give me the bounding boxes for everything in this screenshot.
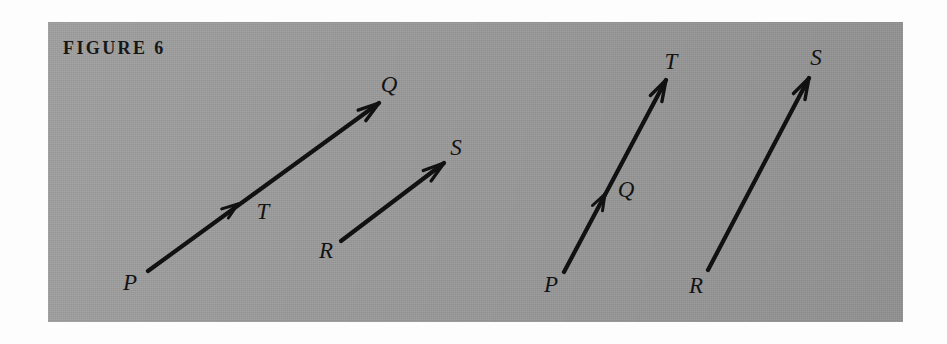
label-r-left: R xyxy=(319,239,333,262)
label-p-right: P xyxy=(544,273,558,296)
figure-panel xyxy=(48,22,903,322)
label-t-right: T xyxy=(665,50,678,73)
panel-shading-overlay xyxy=(48,22,903,322)
label-s-left: S xyxy=(450,136,462,159)
label-q-right: Q xyxy=(618,178,635,201)
label-q-left: Q xyxy=(381,73,398,96)
label-t-left: T xyxy=(257,200,270,223)
panel-grain-texture xyxy=(48,22,903,322)
label-p-left: P xyxy=(123,271,137,294)
figure-caption: FIGURE 6 xyxy=(63,38,166,59)
label-r-right: R xyxy=(689,274,703,297)
figure-root: FIGURE 6 PTQRSPQTRS xyxy=(0,0,947,344)
label-s-right: S xyxy=(810,46,822,69)
